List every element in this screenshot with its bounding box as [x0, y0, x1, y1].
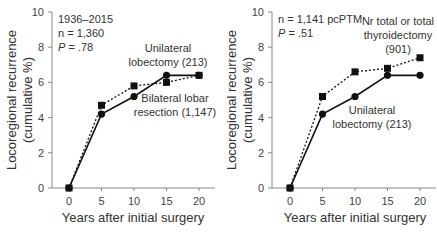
x-tick-label: 20 — [414, 195, 426, 207]
x-tick-label: 5 — [319, 195, 325, 207]
y-tick-label: 8 — [258, 41, 264, 53]
series-label-unilateral-line1: Unilateral — [145, 42, 191, 54]
data-point-square — [384, 65, 391, 72]
figure: Locoregional recurrence (cumulative %) 0… — [0, 0, 437, 232]
data-point-circle — [163, 72, 170, 79]
data-point-circle — [384, 72, 391, 79]
data-point-circle — [416, 72, 423, 79]
annotation-p: P = .51 — [278, 27, 313, 39]
series-label-total-line2: thyroidectomy — [364, 29, 433, 41]
data-point-square — [66, 185, 73, 192]
data-point-square — [319, 93, 326, 100]
p-value: = .78 — [65, 41, 93, 53]
chart-right: Locoregional recurrence (cumulative %) 0… — [224, 6, 436, 225]
x-tick-label: 10 — [128, 195, 140, 207]
x-tick-label: 5 — [98, 195, 104, 207]
y-tick-label: 10 — [32, 6, 44, 18]
series-label-bilateral-line1: Bilateral lobar — [141, 92, 209, 104]
data-point-circle — [98, 110, 105, 117]
y-tick-label: 4 — [38, 112, 44, 124]
x-tick-label: 10 — [349, 195, 361, 207]
y-axis-label-line1: Locoregional recurrence — [4, 30, 19, 170]
x-tick-label: 20 — [193, 195, 205, 207]
data-point-square — [417, 54, 424, 61]
y-tick-label: 0 — [38, 182, 44, 194]
data-point-square — [131, 82, 138, 89]
y-axis-label-line2: (cumulative %) — [20, 57, 35, 143]
data-point-circle — [130, 93, 137, 100]
x-axis-label: Years after initial surgery — [284, 210, 427, 225]
data-point-square — [98, 102, 105, 109]
data-point-square — [163, 79, 170, 86]
series-label-unilateral-line1: Unilateral — [349, 104, 395, 116]
annotation-n: n = 1,360 — [58, 27, 104, 39]
x-tick-label: 0 — [287, 195, 293, 207]
y-tick-label: 2 — [38, 147, 44, 159]
y-tick-label: 6 — [258, 76, 264, 88]
data-point-circle — [319, 110, 326, 117]
y-axis-label-line1: Locoregional recurrence — [224, 30, 239, 170]
series-label-unilateral-line2: lobectomy (213) — [129, 56, 208, 68]
series-line — [290, 75, 420, 188]
series-label-total-line3: (901) — [385, 43, 411, 55]
data-point-circle — [286, 184, 293, 191]
data-point-square — [196, 72, 203, 79]
annotation-years: 1936–2015 — [58, 13, 113, 25]
y-tick-label: 10 — [252, 6, 264, 18]
x-tick-label: 0 — [66, 195, 72, 207]
y-tick-label: 4 — [258, 112, 264, 124]
y-tick-label: 0 — [258, 182, 264, 194]
x-axis-label: Years after initial surgery — [62, 210, 205, 225]
chart-left: Locoregional recurrence (cumulative %) 0… — [4, 6, 216, 225]
y-tick-label: 6 — [38, 76, 44, 88]
series-label-bilateral-line2: resection (1,147) — [134, 106, 217, 118]
x-tick-label: 15 — [381, 195, 393, 207]
y-axis-label-line2: (cumulative %) — [240, 57, 255, 143]
x-tick-label: 15 — [160, 195, 172, 207]
series-label-unilateral-line2: lobectomy (213) — [333, 118, 412, 130]
annotation-n: n = 1,141 pcPTM — [278, 13, 362, 25]
y-tick-label: 8 — [38, 41, 44, 53]
y-tick-label: 2 — [258, 147, 264, 159]
annotation-p: P = .78 — [58, 41, 93, 53]
data-point-square — [352, 68, 359, 75]
data-point-circle — [351, 93, 358, 100]
series-label-total-line1: Nr total or total — [362, 15, 434, 27]
p-value: = .51 — [285, 27, 313, 39]
